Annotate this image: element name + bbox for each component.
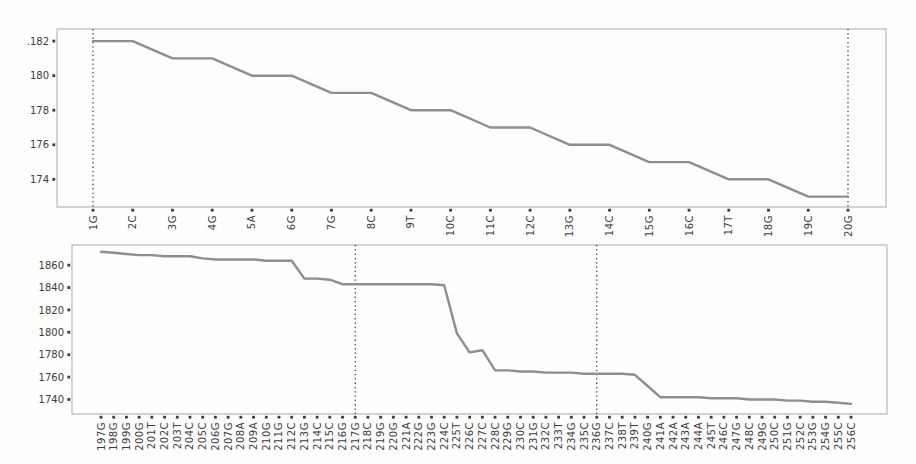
x-tick-mark	[171, 209, 174, 212]
x-tick-label: 7G	[326, 215, 337, 230]
x-tick-label: 18G	[763, 215, 774, 237]
x-tick-label: 211G	[273, 422, 284, 451]
y-tick-label: 1760	[39, 372, 64, 383]
x-tick-label: 233T	[553, 422, 564, 450]
x-tick-label: 210G	[261, 422, 272, 451]
x-tick-label: 220G	[388, 422, 399, 451]
x-tick-mark	[163, 416, 166, 419]
x-tick-mark	[648, 209, 651, 212]
y-tick-label: 174	[30, 174, 49, 185]
x-tick-label: 238T	[617, 422, 628, 450]
x-tick-label: 212C	[286, 422, 297, 450]
y-tick-mark	[52, 109, 55, 112]
x-tick-mark	[92, 209, 95, 212]
x-tick-label: 253G	[807, 422, 818, 451]
chart-top: .1821801781761741G2C3G4G5A6G7G8C9T10C11C…	[27, 29, 886, 237]
data-line	[101, 252, 851, 404]
x-tick-mark	[138, 416, 141, 419]
x-tick-label: 6G	[286, 215, 297, 230]
x-tick-mark	[392, 416, 395, 419]
x-tick-label: 12C	[525, 215, 536, 236]
y-tick-label: 1840	[39, 282, 64, 293]
x-tick-label: 3G	[167, 215, 178, 230]
x-tick-mark	[354, 416, 357, 419]
x-tick-label: 15G	[644, 215, 655, 237]
x-tick-label: 244A	[693, 422, 704, 450]
x-tick-mark	[595, 416, 598, 419]
x-tick-label: 234G	[566, 422, 577, 451]
x-tick-label: 208A	[235, 422, 246, 450]
x-tick-mark	[112, 416, 115, 419]
x-tick-mark	[722, 416, 725, 419]
x-tick-mark	[330, 209, 333, 212]
y-tick-mark	[67, 309, 70, 312]
x-tick-mark	[489, 209, 492, 212]
x-tick-mark	[545, 416, 548, 419]
x-tick-mark	[449, 209, 452, 212]
x-tick-mark	[443, 416, 446, 419]
x-tick-mark	[189, 416, 192, 419]
x-tick-mark	[328, 416, 331, 419]
x-tick-mark	[735, 416, 738, 419]
x-tick-mark	[430, 416, 433, 419]
x-tick-mark	[837, 416, 840, 419]
y-tick-label: 1800	[39, 327, 64, 338]
x-tick-label: 9T	[405, 215, 416, 229]
x-tick-mark	[201, 416, 204, 419]
x-tick-mark	[786, 416, 789, 419]
y-tick-mark	[52, 143, 55, 146]
x-tick-label: 250C	[769, 422, 780, 450]
x-tick-mark	[252, 416, 255, 419]
x-tick-label: 201T	[146, 422, 157, 450]
y-tick-mark	[67, 398, 70, 401]
x-tick-label: 207G	[223, 422, 234, 451]
x-tick-mark	[227, 416, 230, 419]
y-tick-mark	[52, 74, 55, 77]
x-tick-mark	[409, 209, 412, 212]
x-tick-mark	[251, 209, 254, 212]
charts-canvas: .1821801781761741G2C3G4G5A6G7G8C9T10C11C…	[0, 0, 916, 464]
data-line	[93, 41, 848, 197]
x-tick-label: 236G	[591, 422, 602, 451]
x-tick-mark	[847, 209, 850, 212]
x-tick-mark	[646, 416, 649, 419]
x-tick-mark	[850, 416, 853, 419]
x-tick-mark	[621, 416, 624, 419]
x-tick-label: 221A	[401, 422, 412, 450]
x-tick-label: 252C	[795, 422, 806, 450]
x-tick-label: 213G	[299, 422, 310, 451]
x-tick-mark	[506, 416, 509, 419]
x-tick-label: 204C	[184, 422, 195, 450]
x-tick-label: 2C	[127, 215, 138, 229]
x-tick-label: 227C	[477, 422, 488, 450]
x-tick-mark	[214, 416, 217, 419]
x-tick-label: 228C	[490, 422, 501, 450]
x-tick-label: 198G	[108, 422, 119, 451]
x-tick-label: 206G	[210, 422, 221, 451]
x-tick-label: 229G	[502, 422, 513, 451]
x-tick-mark	[684, 416, 687, 419]
x-tick-mark	[370, 209, 373, 212]
x-tick-label: 224C	[439, 422, 450, 450]
x-tick-label: 232C	[540, 422, 551, 450]
x-tick-mark	[405, 416, 408, 419]
y-tick-mark	[52, 40, 55, 43]
y-tick-label: 178	[30, 105, 49, 116]
x-tick-mark	[807, 209, 810, 212]
x-tick-label: 255C	[833, 422, 844, 450]
x-tick-label: 199G	[121, 422, 132, 451]
x-tick-mark	[583, 416, 586, 419]
x-tick-label: 16C	[684, 215, 695, 236]
x-tick-mark	[529, 209, 532, 212]
y-tick-mark	[67, 376, 70, 379]
x-tick-mark	[672, 416, 675, 419]
y-tick-label: .182	[27, 36, 49, 47]
x-tick-mark	[532, 416, 535, 419]
x-tick-mark	[100, 416, 103, 419]
x-tick-mark	[811, 416, 814, 419]
x-tick-mark	[367, 416, 370, 419]
x-tick-label: 200G	[134, 422, 145, 451]
x-tick-label: 237C	[604, 422, 615, 450]
y-tick-mark	[67, 353, 70, 356]
x-tick-mark	[290, 209, 293, 212]
